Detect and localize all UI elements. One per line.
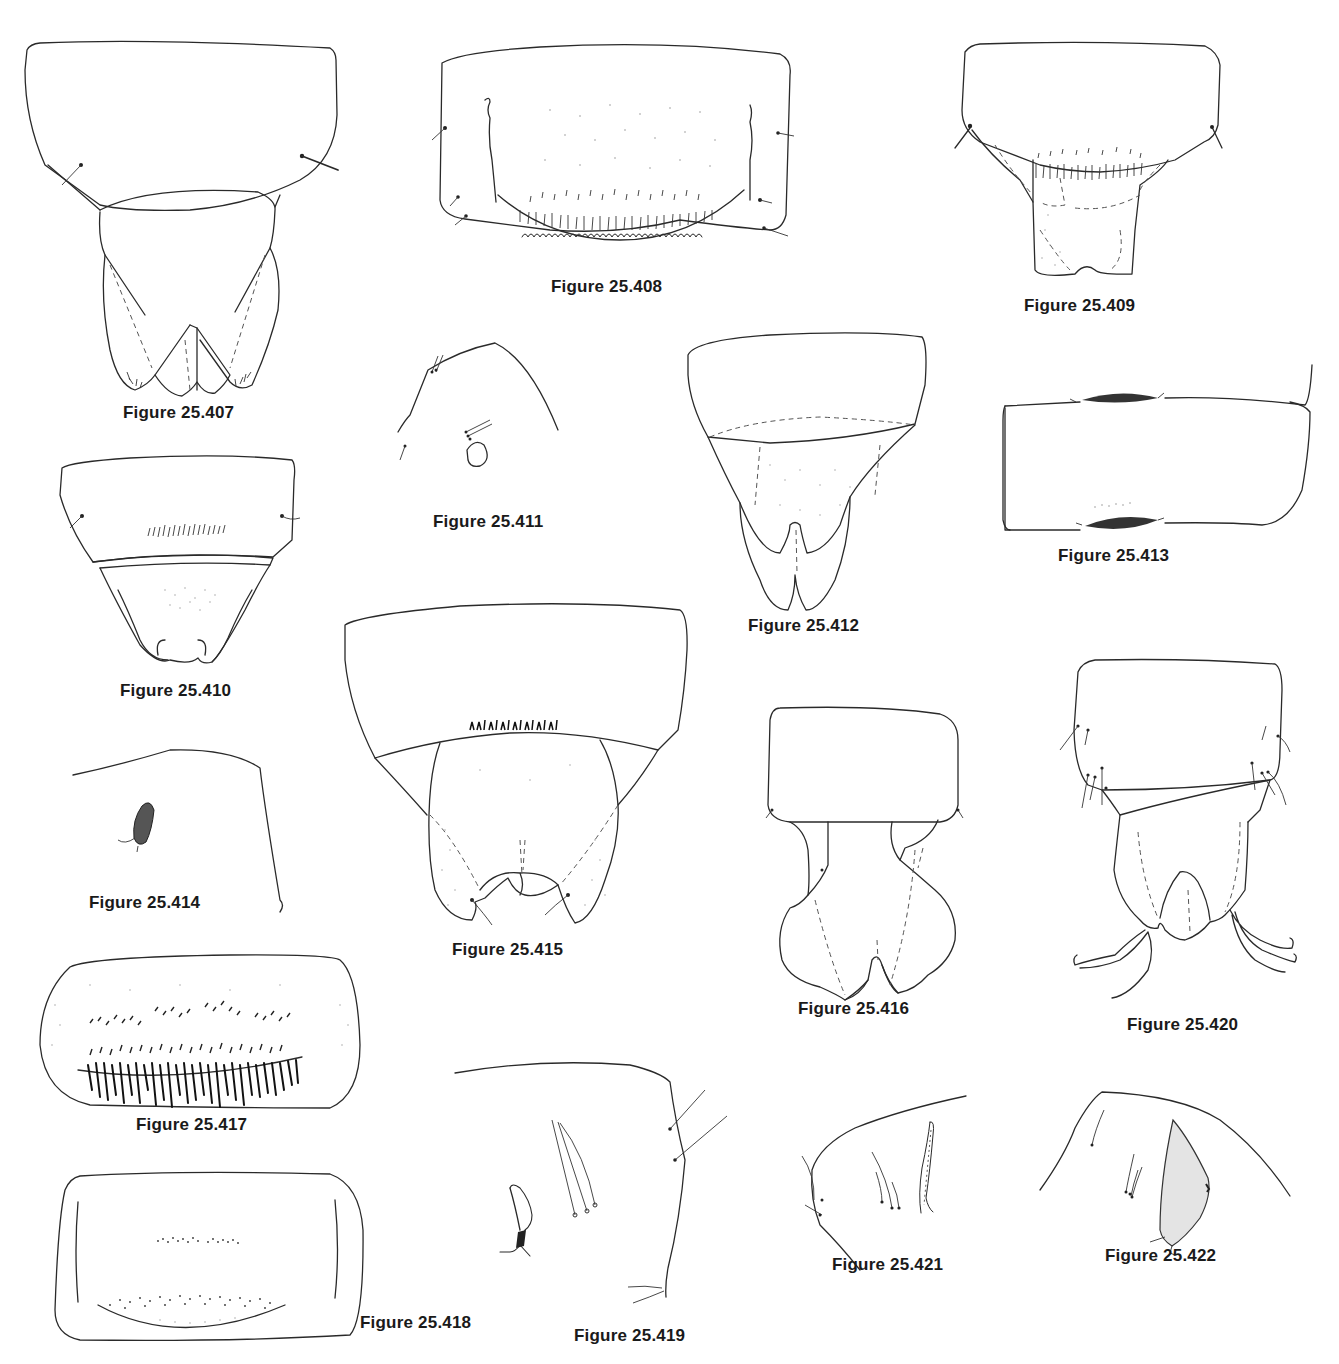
figure-caption: Figure 25.414	[89, 893, 200, 913]
abdominal-sternite-drawing	[30, 945, 380, 1135]
figure-caption: Figure 25.420	[1127, 1015, 1238, 1035]
figure-caption: Figure 25.422	[1105, 1246, 1216, 1266]
abdominal-segment-drawing	[30, 450, 330, 700]
abdominal-segment-drawing	[900, 30, 1339, 320]
abdominal-segment-drawing	[670, 325, 970, 645]
figure-plate: Figure 25.407 Figure 25.40	[0, 0, 1339, 1364]
figure-25-409: Figure 25.409	[900, 30, 1339, 320]
figure-25-421: Figure 25.421	[780, 1040, 1020, 1280]
figure-25-415: Figure 25.415	[330, 590, 690, 970]
abdominal-segment-drawing	[330, 590, 690, 970]
abdominal-segment-drawing	[1030, 650, 1339, 1030]
segment-detail-drawing	[440, 1020, 760, 1360]
figure-caption: Figure 25.421	[832, 1255, 943, 1275]
figure-caption: Figure 25.419	[574, 1326, 685, 1346]
segment-detail-drawing	[380, 340, 600, 530]
figure-25-416: Figure 25.416	[760, 690, 980, 1020]
figure-caption: Figure 25.415	[452, 940, 563, 960]
segment-detail-drawing	[780, 1040, 1020, 1280]
figure-25-412: Figure 25.412	[670, 325, 970, 645]
figure-25-420: Figure 25.420	[1030, 650, 1339, 1030]
figure-25-407: Figure 25.407	[0, 0, 360, 430]
abdominal-sternite-drawing	[1000, 340, 1339, 570]
figure-25-408: Figure 25.408	[420, 30, 820, 290]
abdominal-sternite-drawing	[30, 1160, 370, 1360]
figure-25-419: Figure 25.419	[440, 1020, 760, 1360]
figure-caption: Figure 25.416	[798, 999, 909, 1019]
abdominal-segment-drawing	[760, 690, 980, 1020]
figure-caption: Figure 25.413	[1058, 546, 1169, 566]
figure-25-417: Figure 25.417	[30, 945, 380, 1135]
figure-caption: Figure 25.408	[551, 277, 662, 297]
figure-caption: Figure 25.412	[748, 616, 859, 636]
figure-25-410: Figure 25.410	[30, 450, 330, 700]
figure-caption: Figure 25.409	[1024, 296, 1135, 316]
figure-25-414: Figure 25.414	[80, 720, 320, 920]
figure-caption: Figure 25.411	[433, 512, 543, 532]
abdominal-sternite-drawing	[420, 30, 820, 290]
segment-detail-drawing	[80, 720, 320, 920]
figure-25-411: Figure 25.411	[380, 340, 600, 530]
abdominal-segment-drawing	[0, 0, 360, 430]
figure-caption: Figure 25.410	[120, 681, 231, 701]
figure-caption: Figure 25.417	[136, 1115, 247, 1135]
figure-25-413: Figure 25.413	[1000, 340, 1339, 570]
figure-25-422: Figure 25.422	[1020, 1060, 1339, 1280]
figure-caption: Figure 25.407	[123, 403, 234, 423]
